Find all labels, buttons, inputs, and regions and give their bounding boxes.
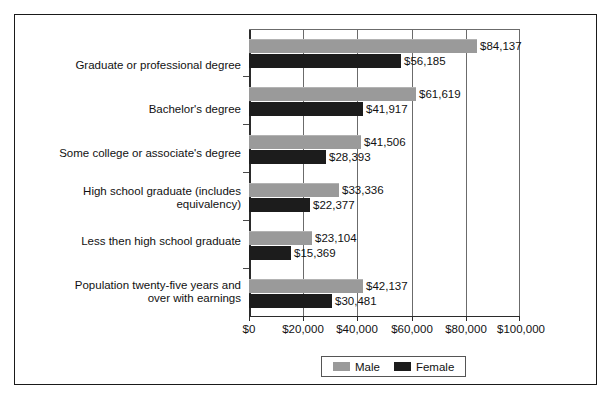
bar-female-population-twenty-five[interactable] <box>249 294 332 308</box>
bar-value-male-high-school-graduate: $33,336 <box>339 183 384 197</box>
category-label-line-1: High school graduate (includes <box>21 185 241 198</box>
bar-value-female-population-twenty-five: $30,481 <box>332 294 377 308</box>
bar-value-female-some-college: $28,393 <box>326 150 371 164</box>
category-label-line-1: Bachelor's degree <box>21 103 241 116</box>
bar-value-male-bachelors-degree: $61,619 <box>416 87 461 101</box>
bar-male-graduate-degree[interactable] <box>249 39 477 53</box>
x-tick-label-60000: $60,000 <box>391 323 433 335</box>
bar-male-some-college[interactable] <box>249 135 361 149</box>
x-axis-line <box>249 316 520 318</box>
gridline-20000 <box>303 29 304 316</box>
bar-male-bachelors-degree[interactable] <box>249 87 416 101</box>
plot-area: $84,137 $56,185 $61,619 $41,917 $41,506 … <box>249 29 520 316</box>
x-tick-label-40000: $40,000 <box>336 323 378 335</box>
bar-value-female-bachelors-degree: $41,917 <box>363 102 408 116</box>
plot-top-border <box>249 29 520 30</box>
gridline-40000 <box>357 29 358 316</box>
legend-entry-female[interactable]: Female <box>394 361 454 373</box>
bar-male-population-twenty-five[interactable] <box>249 279 363 293</box>
category-label-graduate-degree: Graduate or professional degree <box>21 59 241 72</box>
bar-value-male-population-twenty-five: $42,137 <box>363 279 408 293</box>
x-tick-label-20000: $20,000 <box>282 323 324 335</box>
category-label-high-school-graduate: High school graduate (includes equivalen… <box>21 185 241 211</box>
x-axis-tick-100000 <box>519 316 520 321</box>
y-axis-tick-3 <box>243 172 249 173</box>
x-tick-label-0: $0 <box>243 323 256 335</box>
category-label-line-1: Graduate or professional degree <box>21 59 241 72</box>
y-axis-tick-4 <box>243 220 249 221</box>
x-axis-tick-0 <box>249 316 250 321</box>
bar-female-high-school-graduate[interactable] <box>249 198 310 212</box>
legend-entry-male[interactable]: Male <box>333 361 380 373</box>
category-label-line-1: Some college or associate's degree <box>21 147 241 160</box>
category-label-bachelors-degree: Bachelor's degree <box>21 103 241 116</box>
category-label-less-than-high-school: Less then high school graduate <box>21 235 241 248</box>
category-label-line-2: over with earnings <box>21 292 241 305</box>
x-axis-tick-60000 <box>412 316 413 321</box>
category-label-line-2: equivalency) <box>21 198 241 211</box>
y-axis-tick-1 <box>243 76 249 77</box>
bar-male-less-than-high-school[interactable] <box>249 231 312 245</box>
bar-female-some-college[interactable] <box>249 150 326 164</box>
gridline-0 <box>249 29 251 316</box>
gridline-80000 <box>466 29 467 316</box>
x-axis-tick-80000 <box>466 316 467 321</box>
legend-swatch-male-icon <box>333 362 350 371</box>
legend-swatch-female-icon <box>394 362 411 371</box>
x-tick-label-100000: $100,000 <box>497 323 545 335</box>
bar-value-male-graduate-degree: $84,137 <box>477 39 522 53</box>
bar-value-female-high-school-graduate: $22,377 <box>310 198 355 212</box>
category-label-some-college: Some college or associate's degree <box>21 147 241 160</box>
x-axis-tick-40000 <box>357 316 358 321</box>
category-label-line-1: Less then high school graduate <box>21 235 241 248</box>
bar-value-male-less-than-high-school: $23,104 <box>312 231 357 245</box>
bar-female-less-than-high-school[interactable] <box>249 246 291 260</box>
chart-figure: Graduate or professional degree Bachelor… <box>14 14 597 385</box>
bar-female-graduate-degree[interactable] <box>249 54 401 68</box>
legend-label-male: Male <box>355 361 380 373</box>
y-axis-tick-5 <box>243 268 249 269</box>
bar-female-bachelors-degree[interactable] <box>249 102 363 116</box>
category-label-population-twenty-five: Population twenty-five years and over wi… <box>21 279 241 305</box>
bar-male-high-school-graduate[interactable] <box>249 183 339 197</box>
category-label-line-1: Population twenty-five years and <box>21 279 241 292</box>
gridline-60000 <box>412 29 413 316</box>
y-axis-tick-2 <box>243 124 249 125</box>
gridline-100000 <box>519 29 520 316</box>
chart-legend: Male Female <box>321 356 466 377</box>
legend-label-female: Female <box>416 361 454 373</box>
bar-value-female-less-than-high-school: $15,369 <box>291 246 336 260</box>
bar-value-female-graduate-degree: $56,185 <box>401 54 446 68</box>
x-axis-tick-20000 <box>303 316 304 321</box>
x-tick-label-80000: $80,000 <box>445 323 487 335</box>
bar-value-male-some-college: $41,506 <box>361 135 406 149</box>
